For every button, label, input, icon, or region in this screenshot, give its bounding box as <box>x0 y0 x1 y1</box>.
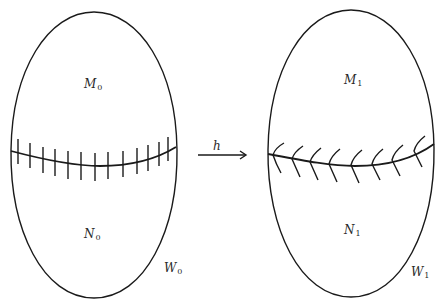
label-M1: M1 <box>344 74 362 88</box>
left-manifold-outline <box>11 12 177 298</box>
label-M1-base: M <box>344 73 356 87</box>
map-arrow <box>198 151 246 159</box>
diagram-canvas <box>0 0 444 307</box>
label-M0-subscript: 0 <box>97 83 102 92</box>
label-N1-subscript: 1 <box>356 229 361 238</box>
cobordism-diagram: M0 N0 W0 h M1 N1 W1 <box>0 0 444 307</box>
label-W0-subscript: 0 <box>177 267 182 276</box>
label-N0-subscript: 0 <box>96 233 101 242</box>
label-W0-base: W <box>164 261 176 275</box>
label-h: h <box>213 140 221 152</box>
right-manifold-outline <box>268 10 434 297</box>
label-W0: W0 <box>164 262 182 276</box>
label-h-text: h <box>213 139 221 153</box>
label-M0-base: M <box>84 77 96 91</box>
label-N0: N0 <box>84 228 101 242</box>
label-N0-base: N <box>84 227 95 241</box>
left-hypersurface-curve <box>11 147 176 166</box>
label-W1-base: W <box>411 265 423 279</box>
label-N1-base: N <box>344 223 355 237</box>
label-W1: W1 <box>411 266 429 280</box>
label-M0: M0 <box>84 78 102 92</box>
label-M1-subscript: 1 <box>357 79 362 88</box>
label-W1-subscript: 1 <box>424 271 429 280</box>
label-N1: N1 <box>344 224 361 238</box>
